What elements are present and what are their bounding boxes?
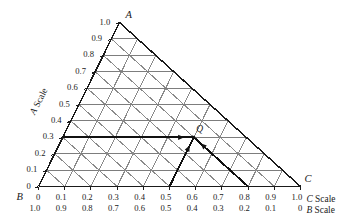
tick-label-a-1: 0.9 (91, 34, 102, 43)
ternary-plot-canvas (0, 0, 344, 224)
point-label-q: Q (196, 125, 203, 135)
axis-name-b-word: Scale (315, 205, 335, 215)
gridline-b-5 (79, 105, 170, 187)
tick-label-c-10: 1.0 (292, 193, 303, 202)
tick-label-c-3: 0.3 (108, 193, 119, 202)
tick-label-b-1: 0.9 (56, 204, 67, 213)
tick-label-a-9: 0.1 (27, 165, 38, 174)
gridline-b-9 (47, 170, 65, 186)
tick-label-a-3: 0.7 (75, 67, 86, 76)
tick-label-a-4: 0.6 (67, 83, 78, 92)
tick-label-b-0: 1.0 (30, 204, 41, 213)
tick-left-0 (35, 187, 38, 189)
tick-label-b-4: 0.6 (134, 204, 145, 213)
tick-label-c-9: 0.9 (265, 193, 276, 202)
construction-line-c (170, 137, 194, 186)
tick-label-c-0: 0 (36, 193, 40, 202)
tick-label-a-5: 0.5 (59, 100, 70, 109)
tick-label-b-5: 0.5 (161, 204, 172, 213)
tick-label-b-8: 0.2 (239, 204, 250, 213)
tick-label-a-0: 1.0 (100, 18, 111, 27)
vertex-label-a: A (126, 10, 132, 21)
tick-label-a-2: 0.8 (83, 50, 94, 59)
axis-name-c-scale: C Scale (307, 195, 336, 204)
gridline-b-7 (63, 137, 117, 186)
vertex-label-b: B (17, 192, 23, 203)
tick-label-a-6: 0.4 (51, 116, 62, 125)
gridline-b-1 (111, 39, 274, 187)
tick-label-c-6: 0.6 (187, 193, 198, 202)
vertex-label-c: C (305, 174, 312, 185)
tick-label-c-8: 0.8 (239, 193, 250, 202)
tick-label-b-6: 0.4 (187, 204, 198, 213)
tick-label-a-8: 0.2 (35, 149, 46, 158)
tick-label-c-1: 0.1 (56, 193, 67, 202)
gridline-c-7 (222, 137, 246, 186)
tick-label-b-7: 0.3 (213, 204, 224, 213)
ternary-diagram-figure: A B C Q A Scale C Scale B Scale 1.00.90.… (0, 0, 344, 224)
tick-label-b-2: 0.8 (82, 204, 93, 213)
axis-name-c-word: Scale (315, 194, 335, 204)
tick-label-a-7: 0.3 (43, 132, 54, 141)
tick-label-c-4: 0.4 (134, 193, 145, 202)
tick-label-c-7: 0.7 (213, 193, 224, 202)
tick-label-b-3: 0.7 (108, 204, 119, 213)
gridline-c-9 (274, 170, 282, 186)
tick-label-c-2: 0.2 (82, 193, 93, 202)
tick-label-b-9: 0.1 (265, 204, 276, 213)
tick-label-b-10: 0 (298, 204, 302, 213)
axis-name-b-scale: B Scale (307, 206, 335, 215)
point-marker-q (192, 136, 195, 139)
tick-label-a-10: 0 (27, 182, 31, 191)
arrowhead-a (178, 135, 184, 140)
gridline-c-3 (117, 72, 174, 187)
tick-label-c-5: 0.5 (161, 193, 172, 202)
